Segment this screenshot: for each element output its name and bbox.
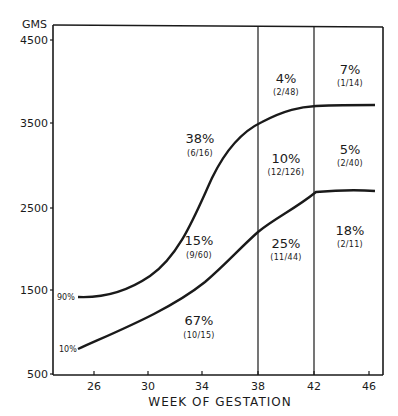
x-tick-26: 26 <box>87 380 101 393</box>
y-tick-2500: 2500 <box>20 202 48 215</box>
x-tick-34: 34 <box>195 380 209 393</box>
region-9-pct: 18% <box>336 223 365 238</box>
region-7-frac: (1/14) <box>337 79 363 88</box>
region-annotations: 38% (6/16) 15% (9/60) 67% (10/15) 4% (2/… <box>183 62 364 340</box>
region-2-pct: 15% <box>185 233 214 248</box>
region-1-pct: 38% <box>186 131 215 146</box>
region-2-frac: (9/60) <box>186 251 212 260</box>
region-4-frac: (2/48) <box>273 88 299 97</box>
region-1-frac: (6/16) <box>187 149 213 158</box>
x-tick-42: 42 <box>307 380 321 393</box>
y-tick-4500: 4500 <box>20 34 48 47</box>
region-8-pct: 5% <box>340 142 361 157</box>
region-3-pct: 67% <box>185 313 214 328</box>
curve-label-90: 90% <box>57 293 75 302</box>
chart-canvas: GMS 4500 3500 2500 1500 500 26 30 34 38 … <box>0 0 398 416</box>
region-3-frac: (10/15) <box>183 331 214 340</box>
region-5-pct: 10% <box>272 151 301 166</box>
x-axis-title: WEEK OF GESTATION <box>148 395 291 409</box>
y-tick-1500: 1500 <box>20 284 48 297</box>
y-tick-500: 500 <box>27 368 48 381</box>
curve-10th-percentile <box>78 190 375 349</box>
x-tick-46: 46 <box>362 380 376 393</box>
region-4-pct: 4% <box>276 71 297 86</box>
region-5-frac: (12/126) <box>268 168 305 177</box>
x-tick-30: 30 <box>141 380 155 393</box>
plot-frame <box>53 25 383 375</box>
region-8-frac: (2/40) <box>337 159 363 168</box>
curve-label-10: 10% <box>59 345 77 354</box>
x-tick-38: 38 <box>251 380 265 393</box>
region-9-frac: (2/11) <box>337 240 363 249</box>
region-6-frac: (11/44) <box>270 253 301 262</box>
y-axis-unit-label: GMS <box>22 18 47 31</box>
region-6-pct: 25% <box>272 236 301 251</box>
y-tick-3500: 3500 <box>20 117 48 130</box>
region-7-pct: 7% <box>340 62 361 77</box>
curve-90th-percentile <box>78 105 375 297</box>
